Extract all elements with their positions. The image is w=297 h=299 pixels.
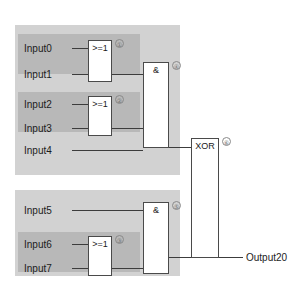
input-label-input4: Input4 (24, 145, 52, 156)
or-gate-3-label: >=1 (89, 239, 111, 250)
xor-gate-6-marker: ⑥ (222, 137, 231, 146)
wire-input2 (72, 104, 88, 105)
wire-or2-out (112, 128, 143, 129)
wire-or1-out (112, 74, 143, 75)
wire-input4 (72, 150, 143, 151)
wire-input0 (72, 48, 88, 49)
or-gate-2-marker: ② (115, 95, 124, 104)
wire-and4-out (169, 147, 191, 148)
input-label-input1: Input1 (24, 69, 52, 80)
or-gate-3[interactable]: >=1 (88, 236, 112, 276)
or-gate-1-marker: ① (115, 39, 124, 48)
wire-xor-out (219, 257, 243, 258)
and-gate-4[interactable]: & (143, 62, 169, 148)
and-gate-5-label: & (144, 205, 168, 216)
or-gate-1[interactable]: >=1 (88, 40, 112, 82)
wire-input5 (72, 210, 143, 211)
or-gate-2[interactable]: >=1 (88, 96, 112, 136)
input-label-input0: Input0 (24, 43, 52, 54)
xor-gate-6[interactable]: XOR (191, 138, 219, 258)
xor-gate-6-label: XOR (192, 141, 218, 152)
wire-input6 (72, 244, 88, 245)
input-label-input2: Input2 (24, 99, 52, 110)
input-label-input7: Input7 (24, 263, 52, 274)
wire-input7 (72, 268, 88, 269)
input-label-input6: Input6 (24, 239, 52, 250)
or-gate-1-label: >=1 (89, 43, 111, 54)
wire-and5-out (169, 257, 191, 258)
or-gate-2-label: >=1 (89, 99, 111, 110)
input-label-input3: Input3 (24, 123, 52, 134)
input-label-input5: Input5 (24, 205, 52, 216)
logic-diagram-canvas: >=1 ① >=1 ② & ④ XOR ⑥ >=1 ③ & ⑤ Input0 (0, 0, 297, 299)
and-gate-4-label: & (144, 65, 168, 76)
and-gate-4-marker: ④ (172, 61, 181, 70)
or-gate-3-marker: ③ (115, 235, 124, 244)
and-gate-5[interactable]: & (143, 202, 169, 274)
wire-input1 (72, 74, 88, 75)
wire-or3-out (112, 268, 143, 269)
wire-input3 (72, 128, 88, 129)
output-label-output20: Output20 (246, 252, 287, 263)
and-gate-5-marker: ⑤ (172, 201, 181, 210)
